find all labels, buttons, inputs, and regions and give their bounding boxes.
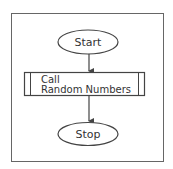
flowchart-canvas: Start Call Random Numbers Stop [0,0,173,169]
stop-node: Stop [58,123,118,146]
call-label-line2: Random Numbers [41,84,131,95]
call-random-numbers-node: Call Random Numbers [25,73,145,96]
start-label: Start [75,36,103,49]
stop-label: Stop [75,128,100,141]
start-node: Start [58,30,118,54]
